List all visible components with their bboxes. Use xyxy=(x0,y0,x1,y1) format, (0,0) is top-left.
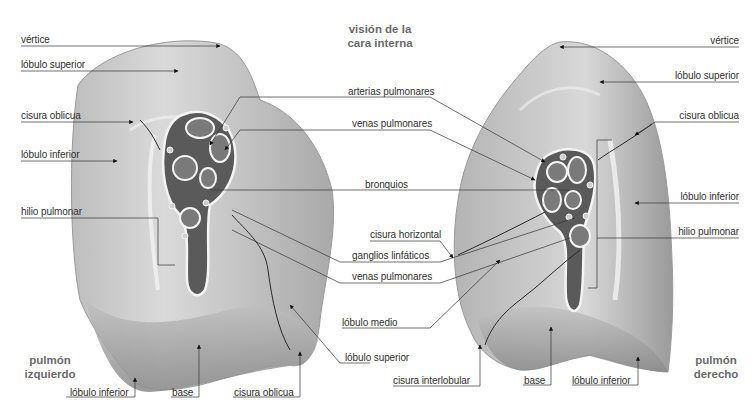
lung-illustration xyxy=(0,0,756,412)
right-label-cisura-oblicua: cisura oblicua xyxy=(679,110,739,122)
right-lung-shape xyxy=(454,42,673,372)
label-venas-pulmonares-bottom: venas pulmonares xyxy=(352,271,432,283)
right-label-cisura-interlobular: cisura interlobular xyxy=(393,375,470,387)
left-lung-shape xyxy=(71,41,333,392)
right-label-cisura-horizontal: cisura horizontal xyxy=(370,229,441,241)
left-label-vertice: vértice xyxy=(21,34,50,46)
left-label-bottom-base: base xyxy=(172,387,193,399)
right-label-lobulo-superior: lóbulo superior xyxy=(675,70,739,82)
view-title-line1: visión de la xyxy=(330,22,430,36)
left-lung-name-line1: pulmón xyxy=(20,353,80,367)
left-label-bottom-cisura-oblicua: cisura oblicua xyxy=(234,387,294,399)
left-label-bottom-lobulo-inferior: lóbulo inferior xyxy=(70,387,129,399)
right-label-vertice: vértice xyxy=(710,35,739,47)
left-label-lobulo-superior-medial: lóbulo superior xyxy=(345,352,409,364)
label-bronquios: bronquios xyxy=(365,179,408,191)
label-venas-pulmonares-top: venas pulmonares xyxy=(352,118,432,130)
right-lung-name-line1: pulmón xyxy=(688,353,744,367)
label-arterias-pulmonares: arterias pulmonares xyxy=(348,86,434,98)
right-label-lobulo-medio: lóbulo medio xyxy=(342,317,398,329)
left-label-cisura-oblicua: cisura oblicua xyxy=(21,110,81,122)
view-title: visión de la cara interna xyxy=(330,22,430,50)
left-label-hilio-pulmonar: hilio pulmonar xyxy=(21,206,82,218)
left-label-lobulo-superior: lóbulo superior xyxy=(21,59,85,71)
right-lung-name-line2: derecho xyxy=(688,367,744,381)
right-label-bottom-base: base xyxy=(524,375,545,387)
left-label-lobulo-inferior: lóbulo inferior xyxy=(21,149,80,161)
right-label-lobulo-inferior: lóbulo inferior xyxy=(680,191,739,203)
left-lung-name-line2: izquierdo xyxy=(20,367,80,381)
right-lung-name: pulmón derecho xyxy=(688,353,744,381)
view-title-line2: cara interna xyxy=(330,36,430,50)
right-label-hilio-pulmonar: hilio pulmonar xyxy=(678,226,739,238)
left-lung-name: pulmón izquierdo xyxy=(20,353,80,381)
lung-anatomy-diagram: visión de la cara interna vértice lóbulo… xyxy=(0,0,756,412)
label-ganglios-linfaticos: ganglios linfáticos xyxy=(352,250,429,262)
right-label-bottom-lobulo-inferior: lóbulo inferior xyxy=(572,375,631,387)
